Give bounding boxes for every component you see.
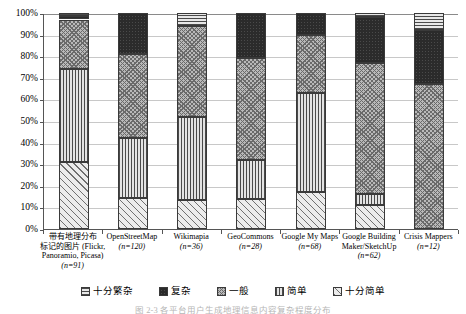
bar-segment[interactable]: [236, 199, 266, 229]
legend-label: 十分繁杂: [93, 286, 133, 296]
y-axis-tick-label: 70%: [0, 74, 38, 84]
bar-segment[interactable]: [59, 13, 89, 16]
plot-area: [43, 14, 458, 230]
category-name-line: Crisis Mappers: [392, 232, 465, 242]
chart-legend: 十分繁杂复杂一般简单十分简单: [0, 283, 466, 299]
y-axis-tick-label: 40%: [0, 139, 38, 149]
stacked-bar[interactable]: [414, 14, 444, 229]
legend-label: 简单: [287, 286, 307, 296]
bar-slot: [281, 14, 340, 229]
legend-label: 一般: [229, 286, 249, 296]
bar-segment[interactable]: [59, 69, 89, 162]
bar-segment[interactable]: [355, 63, 385, 195]
legend-label: 复杂: [171, 286, 191, 296]
bar-segment[interactable]: [355, 17, 385, 62]
legend-item[interactable]: 简单: [275, 286, 307, 296]
y-axis-tick-label: 60%: [0, 95, 38, 105]
y-axis-tick-label: 0%: [0, 225, 38, 235]
bar-segment[interactable]: [59, 20, 89, 70]
bar-segment[interactable]: [355, 194, 385, 205]
bar-segment[interactable]: [414, 84, 444, 229]
bar-slot: [222, 14, 281, 229]
sample-size-label: (n=62): [332, 251, 405, 261]
bar-segment[interactable]: [414, 13, 444, 30]
bar-segment[interactable]: [59, 162, 89, 229]
bar-segment[interactable]: [236, 58, 266, 160]
bar-segment[interactable]: [355, 205, 385, 229]
legend-item[interactable]: 复杂: [159, 286, 191, 296]
stacked-bar[interactable]: [236, 14, 266, 229]
bar-slot: [340, 14, 399, 229]
legend-swatch-icon: [217, 287, 226, 296]
figure-caption: 图 2-3 各平台用户生成地理信息内容复杂程度分布: [0, 303, 466, 314]
bar-segment[interactable]: [296, 35, 326, 93]
y-axis-tick-label: 10%: [0, 203, 38, 213]
y-axis-tick-label: 90%: [0, 31, 38, 41]
bar-segment[interactable]: [118, 13, 148, 54]
legend-item[interactable]: 十分简单: [333, 286, 385, 296]
bar-segment[interactable]: [296, 13, 326, 35]
y-axis-tick-label: 50%: [0, 117, 38, 127]
legend-item[interactable]: 一般: [217, 286, 249, 296]
bar-segment[interactable]: [236, 13, 266, 58]
bar-segment[interactable]: [59, 16, 89, 19]
legend-swatch-icon: [333, 287, 342, 296]
legend-swatch-icon: [81, 287, 90, 296]
bar-segment[interactable]: [236, 160, 266, 199]
sample-size-label: (n=91): [36, 261, 109, 271]
y-axis-tick-label: 100%: [0, 9, 38, 19]
stacked-bar[interactable]: [118, 14, 148, 229]
category-name-line: Panoramio, Picasa): [36, 251, 109, 261]
x-axis-category-label: Crisis Mappers(n=12): [392, 232, 465, 251]
x-axis-labels: 带有地理分布标记的图片 (Flickr,Panoramio, Picasa)(n…: [43, 232, 458, 280]
bar-segment[interactable]: [118, 138, 148, 197]
stacked-bar[interactable]: [59, 14, 89, 229]
chart-container: 100%90%80%70%60%50%40%30%20%10%0% 带有地理分布…: [0, 0, 466, 314]
legend-label: 十分简单: [345, 286, 385, 296]
bar-slot: [163, 14, 222, 229]
stacked-bar[interactable]: [177, 14, 207, 229]
bar-segment[interactable]: [118, 54, 148, 138]
bar-segment[interactable]: [355, 13, 385, 17]
sample-size-label: (n=12): [392, 242, 465, 252]
bar-group: [44, 14, 458, 229]
bar-segment[interactable]: [414, 30, 444, 84]
bar-segment[interactable]: [296, 93, 326, 192]
bar-segment[interactable]: [177, 26, 207, 117]
bar-segment[interactable]: [177, 13, 207, 26]
legend-swatch-icon: [275, 287, 284, 296]
y-axis-tick-label: 20%: [0, 182, 38, 192]
bar-slot: [103, 14, 162, 229]
y-axis-tick-label: 80%: [0, 52, 38, 62]
legend-swatch-icon: [159, 287, 168, 296]
y-axis-tick-label: 30%: [0, 160, 38, 170]
bar-slot: [400, 14, 459, 229]
stacked-bar[interactable]: [296, 14, 326, 229]
bar-segment[interactable]: [177, 117, 207, 200]
bar-slot: [44, 14, 103, 229]
bar-segment[interactable]: [118, 198, 148, 229]
bar-segment[interactable]: [177, 200, 207, 229]
legend-item[interactable]: 十分繁杂: [81, 286, 133, 296]
bar-segment[interactable]: [296, 192, 326, 229]
stacked-bar[interactable]: [355, 14, 385, 229]
